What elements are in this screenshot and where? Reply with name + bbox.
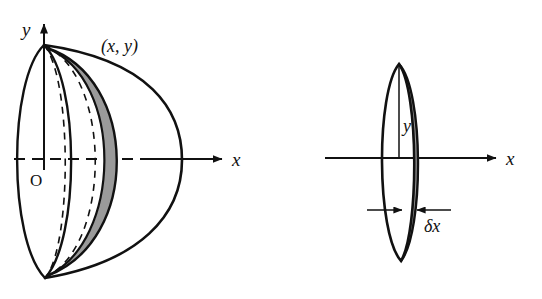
thickness-label: δx <box>424 216 440 236</box>
radius-label: y <box>401 116 411 136</box>
y-axis-label: y <box>20 19 31 40</box>
origin-label: O <box>30 171 42 190</box>
figure-root: y x O (x, y) y x δx <box>0 0 542 299</box>
disc-x-axis-label: x <box>505 148 515 169</box>
diagram-svg: y x O (x, y) y x δx <box>0 0 542 299</box>
x-axis-label: x <box>231 149 241 170</box>
point-label: (x, y) <box>101 36 138 57</box>
